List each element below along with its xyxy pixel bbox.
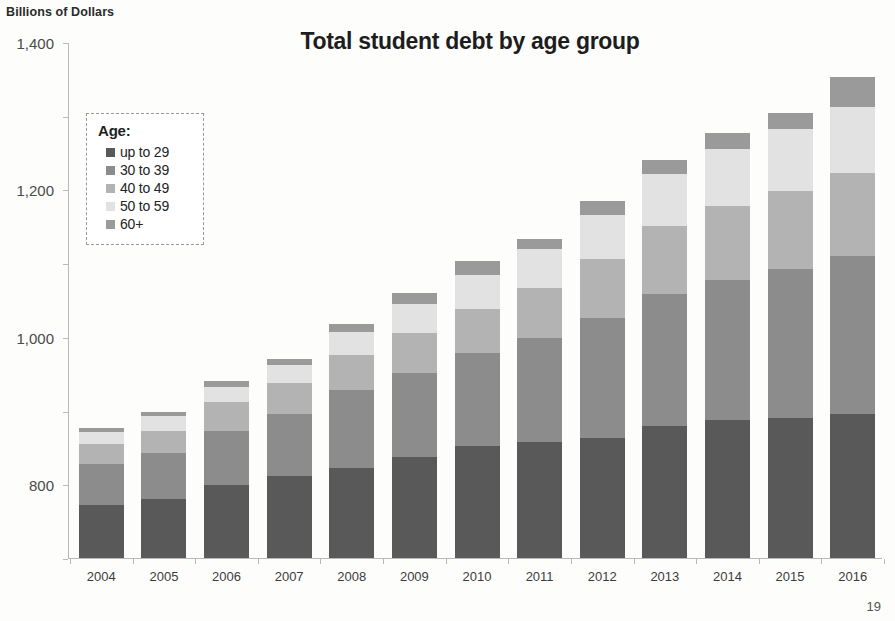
x-tick-label: 2008	[337, 555, 366, 584]
x-tick-label: 2004	[87, 555, 116, 584]
legend-swatch-icon	[106, 166, 115, 175]
bar-segment	[705, 420, 750, 558]
x-tick-label: 2005	[149, 555, 178, 584]
x-tick-mark	[508, 559, 509, 564]
bar-segment	[392, 333, 437, 373]
bar-segment	[642, 160, 687, 174]
bar-segment	[79, 432, 124, 444]
legend-item-30-to-39: 30 to 39	[106, 162, 193, 178]
x-tick-mark	[258, 559, 259, 564]
bar-segment	[267, 414, 312, 476]
bar-segment	[329, 355, 374, 390]
bar-segment	[830, 77, 875, 106]
bar-segment	[517, 442, 562, 558]
bar-segment	[455, 275, 500, 309]
bar-2014	[705, 133, 750, 558]
y-tick-mark: 1,000	[63, 190, 68, 191]
bar-segment	[705, 206, 750, 280]
bar-segment	[642, 174, 687, 226]
bar-segment	[830, 414, 875, 558]
bar-segment	[830, 107, 875, 173]
legend-swatch-icon	[106, 148, 115, 157]
y-tick-mark: 1,200	[63, 117, 68, 118]
bar-2013	[642, 160, 687, 558]
bar-segment	[455, 353, 500, 445]
y-tick-mark: 200	[63, 485, 68, 486]
bar-segment	[204, 485, 249, 558]
x-tick-label: 2015	[776, 555, 805, 584]
bar-segment	[329, 390, 374, 467]
y-tick-mark: 400	[63, 412, 68, 413]
bar-segment	[768, 129, 813, 191]
bar-segment	[455, 261, 500, 275]
bar-2011	[517, 239, 562, 558]
x-tick-label: 2013	[650, 555, 679, 584]
legend-item-label: 30 to 39	[120, 162, 169, 178]
legend-item-label: 60+	[120, 216, 143, 232]
legend-title: Age:	[98, 122, 193, 139]
bar-segment	[392, 373, 437, 457]
x-tick-mark	[884, 559, 885, 564]
bar-segment	[141, 431, 186, 453]
bar-2009	[392, 293, 437, 558]
x-tick-label: 2010	[463, 555, 492, 584]
x-tick-label: 2014	[713, 555, 742, 584]
legend-item-label: 40 to 49	[120, 180, 169, 196]
bar-segment	[517, 288, 562, 338]
bar-2010	[455, 261, 500, 558]
bar-segment	[392, 457, 437, 558]
y-tick-label: 1,200	[16, 182, 54, 199]
bar-2006	[204, 381, 249, 558]
y-axis-line	[68, 43, 69, 559]
chart-page: Billions of Dollars Total student debt b…	[0, 0, 895, 621]
x-tick-mark	[696, 559, 697, 564]
x-tick-label: 2009	[400, 555, 429, 584]
legend-item-label: 50 to 59	[120, 198, 169, 214]
bar-segment	[329, 324, 374, 332]
bar-segment	[642, 226, 687, 294]
legend-item-up-to-29: up to 29	[106, 144, 193, 160]
bar-segment	[141, 453, 186, 499]
x-tick-mark	[446, 559, 447, 564]
y-tick-label: 1,000	[16, 329, 54, 346]
y-tick-mark: 800	[63, 264, 68, 265]
x-tick-label: 2012	[588, 555, 617, 584]
bar-segment	[705, 133, 750, 148]
bar-segment	[830, 173, 875, 256]
bar-segment	[79, 464, 124, 505]
bar-segment	[768, 269, 813, 418]
y-tick-mark: 600	[63, 338, 68, 339]
x-tick-mark	[70, 559, 71, 564]
bar-segment	[392, 293, 437, 304]
y-tick-mark: 0	[63, 559, 68, 560]
bar-2012	[580, 201, 625, 558]
bar-segment	[517, 249, 562, 288]
y-axis-unit-caption: Billions of Dollars	[6, 5, 114, 19]
bar-segment	[79, 444, 124, 464]
bar-segment	[455, 309, 500, 353]
bar-2004	[79, 428, 124, 558]
bar-segment	[455, 446, 500, 558]
y-tick-mark: 1,400	[63, 43, 68, 44]
x-tick-mark	[195, 559, 196, 564]
legend-item-40-to-49: 40 to 49	[106, 180, 193, 196]
bar-segment	[392, 304, 437, 333]
legend: Age: up to 2930 to 3940 to 4950 to 5960+	[86, 113, 204, 245]
bar-segment	[79, 505, 124, 558]
bar-segment	[204, 387, 249, 402]
bar-segment	[580, 201, 625, 216]
bar-2016	[830, 77, 875, 558]
bar-segment	[517, 338, 562, 442]
bar-segment	[642, 426, 687, 558]
x-tick-label: 2016	[838, 555, 867, 584]
legend-swatch-icon	[106, 220, 115, 229]
bar-2015	[768, 113, 813, 558]
bar-2008	[329, 324, 374, 558]
bar-segment	[141, 499, 186, 558]
y-tick-label: 1,400	[16, 35, 54, 52]
x-tick-mark	[571, 559, 572, 564]
bar-segment	[830, 256, 875, 414]
x-tick-label: 2011	[526, 555, 554, 584]
x-tick-mark	[383, 559, 384, 564]
bar-segment	[768, 191, 813, 268]
